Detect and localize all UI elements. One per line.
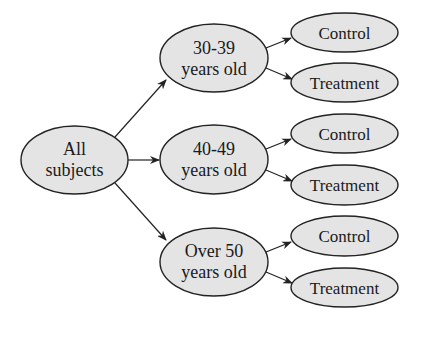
node-label: Control [319, 227, 371, 246]
node-label: 40-49 [193, 139, 235, 159]
node-over-50-years-old: Over 50 years old [160, 228, 268, 296]
node-40-49-control: Control [291, 114, 398, 153]
node-label: years old [181, 160, 246, 180]
node-over-50-control: Control [291, 216, 398, 256]
edge-root-to-over-50 [115, 183, 166, 240]
edge-40-49-to-treatment [266, 170, 292, 181]
node-40-49-years-old: 40-49 years old [160, 125, 268, 194]
node-30-39-control: Control [291, 13, 398, 52]
edge-root-to-30-39 [115, 80, 166, 137]
node-label: years old [181, 262, 246, 282]
node-label: 30-39 [193, 38, 235, 58]
node-label: Treatment [310, 279, 380, 298]
edge-30-39-to-treatment [266, 68, 292, 79]
node-30-39-years-old: 30-39 years old [160, 24, 268, 92]
node-label: subjects [46, 160, 104, 180]
node-30-39-treatment: Treatment [291, 63, 398, 102]
edge-30-39-to-control [266, 38, 291, 48]
node-label: All [63, 139, 86, 159]
node-label: Treatment [310, 176, 380, 195]
node-label: Treatment [310, 74, 380, 93]
edge-over-50-to-treatment [266, 272, 292, 283]
node-label: Control [319, 125, 371, 144]
node-label: Control [319, 24, 371, 43]
node-all-subjects: All subjects [21, 126, 128, 194]
node-over-50-treatment: Treatment [291, 268, 398, 307]
node-label: years old [181, 59, 246, 79]
node-label: Over 50 [185, 241, 243, 261]
edge-over-50-to-control [266, 242, 291, 252]
tree-diagram: All subjects 30-39 years old 40-49 years… [0, 0, 430, 339]
edge-40-49-to-control [266, 139, 291, 149]
node-40-49-treatment: Treatment [291, 165, 398, 205]
